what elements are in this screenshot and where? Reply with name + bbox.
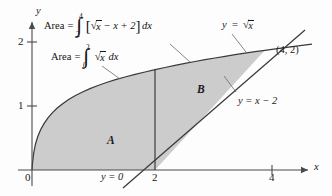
y-tick-label-2: 2 (18, 36, 24, 47)
formula-a-lower-limit: 0 (83, 61, 87, 70)
baseline-label-text: y = 0 (101, 171, 123, 182)
line-xminus2-label-text: y = x − 2 (238, 95, 277, 106)
sqrt-glyph-group: √x (243, 19, 254, 31)
y-axis-label: y (36, 6, 41, 17)
formula-a-upper-limit: 2 (86, 43, 90, 52)
x-axis-label: x (314, 162, 319, 173)
x-tick-label-4: 4 (269, 172, 275, 183)
formula-b-bracket-close: ] (136, 20, 141, 32)
formula-b-differential: dx (142, 20, 152, 31)
leader-line-formula-simple (102, 66, 120, 79)
integral-sign-group-b: ∫ 4 2 (76, 16, 85, 35)
formula-b-radicand: x (96, 20, 102, 32)
y-tick-label-1: 1 (18, 100, 24, 111)
line-xminus2-label: y = x − 2 (238, 96, 277, 107)
formula-region-b: Area = ∫ 4 2 [ √x − x + 2 ] dx (44, 16, 152, 35)
curve-sqrt-label-radicand: x (248, 20, 254, 32)
formula-b-lower-limit: 2 (76, 30, 80, 39)
baseline-label: y = 0 (101, 172, 123, 183)
curve-sqrt-label-var: y (222, 19, 227, 30)
formula-b-equals: = (67, 20, 73, 31)
formula-a-radicand: x (100, 51, 106, 63)
formula-b-word: Area (44, 20, 64, 31)
integral-sign-group-a: ∫ 2 0 (83, 47, 92, 66)
formula-a-equals: = (74, 51, 80, 62)
formula-a-differential: dx (109, 51, 119, 62)
region-a-label: A (107, 135, 115, 147)
formula-a-sqrt-group: √x (95, 51, 106, 63)
intersection-point-label: (4, 2) (276, 45, 299, 56)
region-b-label: B (197, 84, 205, 96)
curve-sqrt-label: y = √x (222, 19, 254, 31)
x-axis-arrowhead (301, 167, 308, 173)
leader-line-formula-bracket (170, 44, 190, 62)
curve-sqrt-label-eq: = (229, 19, 240, 30)
area-between-curves-figure: y x 0 2 1 2 4 A B y = 0 (4, 2) y = √x y … (0, 0, 332, 196)
x-tick-label-2: 2 (152, 172, 158, 183)
region-a-shading (32, 70, 155, 170)
y-axis-arrowhead (29, 22, 35, 29)
formula-region-a: Area = ∫ 2 0 √x dx (51, 47, 118, 66)
formula-a-word: Area (51, 51, 71, 62)
formula-b-upper-limit: 4 (79, 12, 83, 21)
origin-label: 0 (25, 172, 31, 183)
formula-b-rest: − x + 2 (104, 20, 136, 31)
formula-b-sqrt-group: √x (91, 20, 102, 32)
leader-line-sqrt-label (232, 34, 246, 52)
